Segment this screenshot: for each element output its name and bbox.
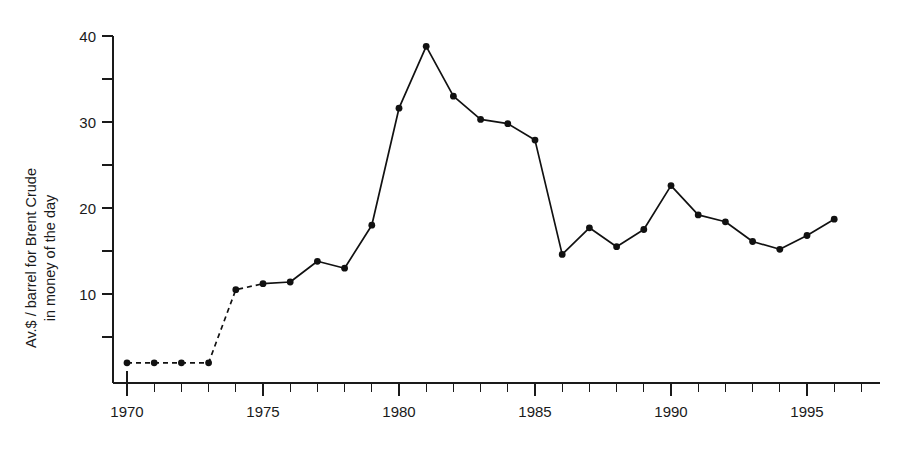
x-axis-minor-ticks — [127, 371, 861, 392]
data-point-1970: 1970: 2 — [124, 359, 131, 366]
x-tick-label-1975: 1975 — [246, 403, 279, 420]
y-axis-title-line-2: in money of the day — [42, 194, 58, 321]
data-point-1982: 1982: 33 — [450, 93, 457, 100]
data-point-1995: 1995: 16.8 — [804, 232, 811, 239]
y-axis-title-line-1: Av.$ / barrel for Brent Crude — [23, 168, 39, 348]
data-point-1976: 1976: 11.4 — [287, 279, 294, 286]
data-point-1991: 1991: 19.2 — [695, 212, 702, 219]
data-point-1986: 1986: 14.6 — [559, 251, 566, 258]
x-tick-label-1985: 1985 — [518, 403, 551, 420]
data-point-1974: 1974: 10.5 — [232, 286, 239, 293]
data-series-group: 1970: 21971: 21972: 21973: 21974: 10.519… — [124, 43, 838, 366]
y-tick-label-10: 10 — [79, 286, 96, 303]
line-chart-brent-crude: 10203040 197019751980198519901995 Av.$ /… — [0, 0, 905, 463]
data-point-1993: 1993: 16.1 — [749, 238, 756, 245]
data-point-1989: 1989: 17.5 — [640, 226, 647, 233]
data-point-1996: 1996: 18.7 — [831, 216, 838, 223]
chart-figure: 10203040 197019751980198519901995 Av.$ /… — [0, 0, 905, 463]
series-line-dashed-segment — [127, 284, 263, 363]
x-tick-label-1980: 1980 — [382, 403, 415, 420]
data-point-1987: 1987: 17.7 — [586, 224, 593, 231]
y-tick-label-40: 40 — [79, 28, 96, 45]
data-point-1985: 1985: 27.9 — [532, 137, 539, 144]
data-point-1980: 1980: 31.6 — [396, 105, 403, 112]
y-tick-label-20: 20 — [79, 200, 96, 217]
data-point-1978: 1978: 13 — [341, 265, 348, 272]
data-point-1988: 1988: 15.5 — [613, 243, 620, 250]
data-point-1983: 1983: 30.3 — [477, 116, 484, 123]
y-tick-label-30: 30 — [79, 114, 96, 131]
y-axis-tick-labels: 10203040 — [79, 28, 96, 303]
data-point-1984: 1984: 29.8 — [504, 120, 511, 127]
x-axis-tick-labels: 197019751980198519901995 — [110, 403, 823, 420]
x-tick-label-1990: 1990 — [654, 403, 687, 420]
data-point-1971: 1971: 2 — [151, 359, 158, 366]
x-tick-label-1970: 1970 — [110, 403, 143, 420]
x-axis-major-ticks — [127, 383, 807, 396]
data-point-1979: 1979: 18 — [368, 222, 375, 229]
data-point-1977: 1977: 13.8 — [314, 258, 321, 265]
data-point-1972: 1972: 2 — [178, 359, 185, 366]
y-axis-title: Av.$ / barrel for Brent Crude in money o… — [23, 168, 58, 348]
data-point-1975: 1975: 11.2 — [260, 280, 267, 287]
x-axis: 197019751980198519901995 — [110, 371, 880, 420]
data-point-1992: 1992: 18.4 — [722, 218, 729, 225]
data-point-markers: 1970: 21971: 21972: 21973: 21974: 10.519… — [124, 43, 838, 366]
data-point-1990: 1990: 22.6 — [668, 182, 675, 189]
data-point-1981: 1981: 38.8 — [423, 43, 430, 50]
x-tick-label-1995: 1995 — [790, 403, 823, 420]
data-point-1973: 1973: 2 — [205, 359, 212, 366]
data-point-1994: 1994: 15.2 — [776, 246, 783, 253]
y-axis: 10203040 — [79, 28, 113, 384]
series-line-solid-segment — [263, 46, 834, 283]
